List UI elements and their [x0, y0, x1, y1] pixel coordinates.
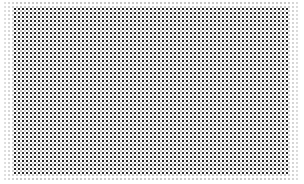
dot-grid: [14, 8, 290, 176]
dot-pattern-canvas: [0, 0, 304, 184]
